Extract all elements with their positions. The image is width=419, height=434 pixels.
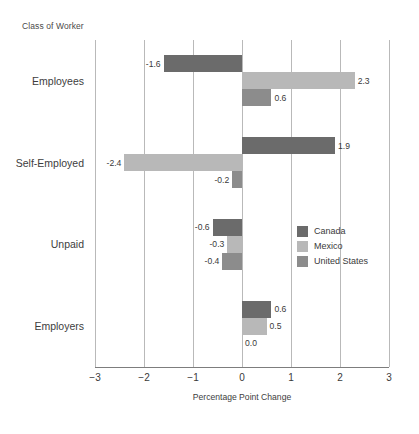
bar xyxy=(242,318,267,335)
gridline-2 xyxy=(193,40,194,367)
bar-value-label: 0.0 xyxy=(245,339,257,348)
chart-container: Class of Worker EmployeesSelf-EmployedUn… xyxy=(0,0,419,434)
bar-value-label: -0.3 xyxy=(209,240,224,249)
x-axis-title: Percentage Point Change xyxy=(95,392,389,402)
category-label: Employees xyxy=(32,75,84,87)
bar xyxy=(232,171,242,188)
bar xyxy=(242,72,355,89)
legend-item[interactable]: Canada xyxy=(297,224,368,239)
bar xyxy=(222,253,242,270)
legend-swatch-icon xyxy=(297,226,308,237)
chart-title: Class of Worker xyxy=(22,21,84,31)
legend-item[interactable]: United States xyxy=(297,254,368,269)
bar-value-label: -0.2 xyxy=(214,175,229,184)
bar-value-label: -0.6 xyxy=(195,223,210,232)
legend-swatch-icon xyxy=(297,241,308,252)
legend-label: Canada xyxy=(314,227,346,236)
gridline-1 xyxy=(144,40,145,367)
bar-value-label: 0.6 xyxy=(274,94,286,103)
gridline-0 xyxy=(95,40,96,367)
bar xyxy=(124,154,242,171)
x-tick-label: 0 xyxy=(239,372,245,383)
bar xyxy=(164,55,242,72)
x-tick-label: 1 xyxy=(288,372,294,383)
bar xyxy=(242,301,271,318)
bar-value-label: -0.4 xyxy=(205,257,220,266)
x-axis-line xyxy=(95,367,389,368)
bar xyxy=(242,137,335,154)
x-tick-label: 2 xyxy=(337,372,343,383)
bar-value-label: 2.3 xyxy=(358,77,370,86)
category-label: Self-Employed xyxy=(16,157,84,169)
legend-label: United States xyxy=(314,257,368,266)
category-label: Employers xyxy=(34,320,84,332)
bar-value-label: 0.6 xyxy=(274,305,286,314)
bar-value-label: -2.4 xyxy=(107,158,122,167)
bar-value-label: 1.9 xyxy=(338,141,350,150)
legend-swatch-icon xyxy=(297,256,308,267)
legend-item[interactable]: Mexico xyxy=(297,239,368,254)
x-tick-label: −3 xyxy=(89,372,100,383)
bar xyxy=(213,219,242,236)
bar-value-label: 0.5 xyxy=(270,322,282,331)
gridline-6 xyxy=(389,40,390,367)
x-tick-label: −2 xyxy=(138,372,149,383)
legend-label: Mexico xyxy=(314,242,343,251)
category-label: Unpaid xyxy=(51,238,84,250)
bar xyxy=(227,236,242,253)
x-tick-label: −1 xyxy=(187,372,198,383)
bar xyxy=(242,89,271,106)
bar-value-label: -1.6 xyxy=(146,60,161,69)
x-tick-label: 3 xyxy=(386,372,392,383)
legend: CanadaMexicoUnited States xyxy=(297,224,368,269)
